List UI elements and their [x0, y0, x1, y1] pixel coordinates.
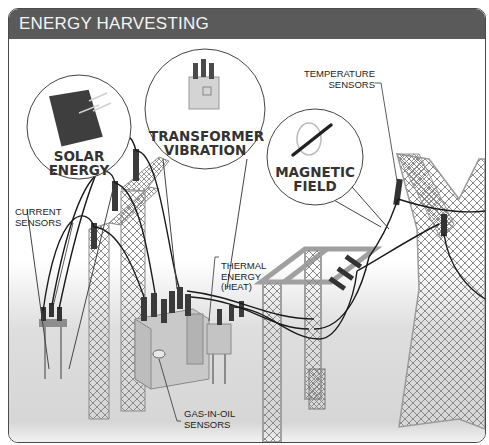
diagram-title: ENERGY HARVESTING	[19, 14, 209, 34]
transformer-vibration-label: TRANSFORMER VIBRATION	[149, 129, 261, 157]
current-sensors-label: CURRENT SENSORS	[15, 207, 61, 228]
diagram-frame: ENERGY HARVESTING	[8, 8, 486, 443]
title-bar: ENERGY HARVESTING	[9, 9, 485, 39]
thermal-energy-label: THERMAL ENERGY (HEAT)	[221, 261, 266, 293]
gas-in-oil-sensors-label: GAS-IN-OIL SENSORS	[184, 409, 235, 430]
scene-illustration	[9, 39, 485, 442]
solar-energy-label: SOLAR ENERGY	[45, 149, 113, 177]
substation-scene: SOLAR ENERGY TRANSFORMER VIBRATION MAGNE…	[9, 39, 485, 442]
temperature-sensors-label: TEMPERATURE SENSORS	[291, 69, 375, 90]
magnetic-field-label: MAGNETIC FIELD	[269, 165, 361, 193]
